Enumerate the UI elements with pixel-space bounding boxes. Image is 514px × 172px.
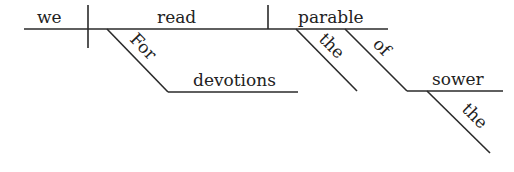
article-the-word: the	[315, 29, 349, 63]
diagram-canvas: we read parable devotions sower For the …	[0, 0, 514, 172]
prep-object-sower-word: sower	[432, 69, 485, 89]
preposition-of-line	[345, 29, 407, 91]
verb-word: read	[157, 7, 196, 27]
object-word: parable	[298, 7, 364, 27]
preposition-for-word: For	[126, 29, 161, 65]
prep-object-devotions-word: devotions	[193, 70, 276, 90]
subject-word: we	[37, 7, 62, 27]
sentence-diagram: we read parable devotions sower For the …	[0, 0, 514, 172]
